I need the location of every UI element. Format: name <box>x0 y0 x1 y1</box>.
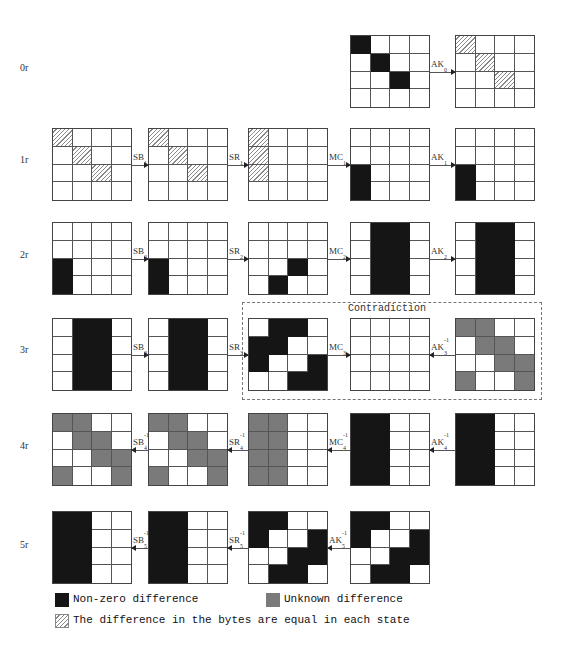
state-cell <box>351 89 371 107</box>
state-cell <box>476 36 496 54</box>
state-cell <box>371 129 391 147</box>
state-cell <box>249 432 269 450</box>
state-cell <box>73 165 93 183</box>
state-cell <box>308 467 328 485</box>
state-cell <box>249 467 269 485</box>
operation-label: SB3 <box>133 342 147 354</box>
round-label: 4r <box>20 440 28 451</box>
state-cell <box>371 565 391 583</box>
state-cell <box>351 165 371 183</box>
state-cell <box>351 467 371 485</box>
state-cell <box>169 565 189 583</box>
state-cell <box>495 36 515 54</box>
state-cell <box>53 565 73 583</box>
state-cell <box>112 355 132 373</box>
state-cell <box>53 147 73 165</box>
state-cell <box>410 147 430 165</box>
state-cell <box>73 241 93 259</box>
state-grid <box>248 222 328 295</box>
state-cell <box>351 259 371 277</box>
state-grid <box>350 128 430 201</box>
state-cell <box>351 182 371 200</box>
state-cell <box>249 276 269 294</box>
state-cell <box>73 530 93 548</box>
legend-label-nonzero: Non-zero difference <box>73 593 198 605</box>
state-cell <box>456 276 476 294</box>
state-cell <box>73 319 93 337</box>
state-cell <box>53 129 73 147</box>
state-grid <box>248 128 328 201</box>
state-cell <box>169 432 189 450</box>
state-cell <box>456 165 476 183</box>
state-cell <box>112 182 132 200</box>
state-cell <box>288 182 308 200</box>
state-cell <box>371 467 391 485</box>
state-cell <box>249 565 269 583</box>
state-cell <box>188 565 208 583</box>
state-cell <box>515 259 535 277</box>
state-cell <box>208 129 228 147</box>
state-cell <box>410 276 430 294</box>
state-cell <box>390 548 410 566</box>
round-label: 1r <box>20 154 28 165</box>
state-cell <box>390 129 410 147</box>
state-cell <box>73 337 93 355</box>
state-grid <box>350 35 430 108</box>
state-cell <box>169 450 189 468</box>
operation-label: AK-14 <box>431 437 447 449</box>
state-cell <box>112 450 132 468</box>
state-cell <box>390 223 410 241</box>
state-cell <box>53 165 73 183</box>
state-cell <box>476 467 496 485</box>
state-cell <box>149 241 169 259</box>
state-cell <box>351 548 371 566</box>
state-cell <box>188 241 208 259</box>
state-cell <box>288 129 308 147</box>
state-cell <box>456 259 476 277</box>
state-cell <box>515 450 535 468</box>
state-cell <box>390 165 410 183</box>
state-cell <box>188 165 208 183</box>
state-cell <box>269 530 289 548</box>
state-cell <box>288 548 308 566</box>
state-cell <box>456 432 476 450</box>
state-cell <box>169 414 189 432</box>
state-cell <box>456 147 476 165</box>
state-grid <box>52 318 132 391</box>
state-cell <box>371 530 391 548</box>
round-label: 0r <box>20 62 28 73</box>
state-cell <box>149 355 169 373</box>
state-cell <box>169 530 189 548</box>
operation-label: SR2 <box>229 246 243 258</box>
state-grid <box>248 413 328 486</box>
legend-label-hatched: The difference in the bytes are equal in… <box>73 614 410 626</box>
state-cell <box>456 89 476 107</box>
arrow-right-icon <box>228 165 248 166</box>
state-cell <box>288 223 308 241</box>
state-cell <box>169 182 189 200</box>
state-cell <box>112 548 132 566</box>
state-cell <box>269 276 289 294</box>
state-cell <box>456 223 476 241</box>
round-label: 5r <box>20 539 28 550</box>
state-cell <box>476 147 496 165</box>
state-cell <box>188 182 208 200</box>
operation-label: AK0 <box>431 59 447 71</box>
state-cell <box>169 355 189 373</box>
state-cell <box>92 355 112 373</box>
state-cell <box>288 467 308 485</box>
contradiction-box <box>242 302 542 400</box>
state-cell <box>456 129 476 147</box>
state-grid <box>52 222 132 295</box>
state-grid <box>148 222 228 295</box>
state-cell <box>410 241 430 259</box>
state-cell <box>308 450 328 468</box>
state-cell <box>269 450 289 468</box>
operation-label: AK2 <box>431 246 447 258</box>
state-cell <box>73 147 93 165</box>
state-cell <box>188 276 208 294</box>
state-cell <box>410 512 430 530</box>
state-cell <box>288 450 308 468</box>
state-cell <box>515 72 535 90</box>
state-cell <box>112 319 132 337</box>
